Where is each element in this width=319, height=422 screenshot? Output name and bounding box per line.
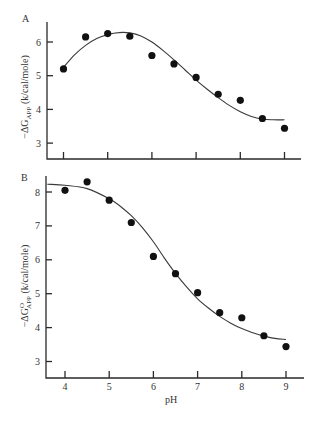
panel-b-label: B bbox=[21, 172, 28, 183]
data-point bbox=[281, 125, 288, 132]
y-tick-label: 5 bbox=[36, 70, 41, 81]
data-point bbox=[61, 187, 68, 194]
y-tick-label: 4 bbox=[36, 104, 41, 115]
y-tick-label: 6 bbox=[36, 37, 41, 48]
panel-b-axes: 345678456789 bbox=[35, 176, 304, 392]
svg-text:−ΔGAPP (k/cal/mole): −ΔGAPP (k/cal/mole) bbox=[19, 55, 33, 139]
data-point bbox=[150, 253, 157, 260]
data-point bbox=[260, 332, 267, 339]
data-point bbox=[282, 343, 289, 350]
y-tick-label: 3 bbox=[36, 138, 41, 149]
panel-b-fit-curve bbox=[47, 184, 286, 339]
data-point bbox=[84, 178, 91, 185]
y-tick-label: 8 bbox=[35, 187, 40, 198]
data-point bbox=[216, 309, 223, 316]
x-tick-label: 6 bbox=[151, 381, 156, 392]
panel-b: B −ΔGOAPP (k/cal/mole) 345678456789 bbox=[18, 172, 304, 392]
data-point bbox=[237, 97, 244, 104]
figure: A −ΔGAPP (k/cal/mole) 3456 B −ΔGOAPP (k/… bbox=[0, 0, 319, 422]
data-point bbox=[82, 33, 89, 40]
data-point bbox=[106, 197, 113, 204]
y-tick-label: 5 bbox=[35, 288, 40, 299]
data-point bbox=[215, 91, 222, 98]
data-point bbox=[128, 219, 135, 226]
x-tick-label: 8 bbox=[239, 381, 244, 392]
data-point bbox=[193, 74, 200, 81]
data-point bbox=[126, 33, 133, 40]
panel-a-axes: 3456 bbox=[36, 22, 301, 159]
panel-b-data-points bbox=[61, 178, 289, 350]
data-point bbox=[172, 270, 179, 277]
x-tick-label: 5 bbox=[107, 381, 112, 392]
x-tick-label: 4 bbox=[63, 381, 68, 392]
panel-a-fit-curve bbox=[64, 32, 285, 119]
y-tick-label: 3 bbox=[35, 356, 40, 367]
y-tick-label: 7 bbox=[35, 220, 40, 231]
y-tick-label: 4 bbox=[35, 322, 40, 333]
y-tick-label: 6 bbox=[35, 254, 40, 265]
panel-a-label: A bbox=[22, 13, 30, 24]
panel-b-y-axis-title: −ΔGOAPP (k/cal/mole) bbox=[18, 245, 33, 328]
axis-lines bbox=[47, 22, 301, 159]
data-point bbox=[238, 314, 245, 321]
fit-curve bbox=[47, 184, 286, 339]
x-tick-label: 9 bbox=[284, 381, 289, 392]
data-point bbox=[170, 60, 177, 67]
data-point bbox=[148, 52, 155, 59]
data-point bbox=[104, 30, 111, 37]
panel-a-data-points bbox=[60, 30, 288, 132]
svg-text:−ΔGOAPP (k/cal/mole): −ΔGOAPP (k/cal/mole) bbox=[18, 245, 33, 328]
x-tick-label: 7 bbox=[195, 381, 200, 392]
x-axis-title: pH bbox=[165, 394, 177, 405]
data-point bbox=[60, 65, 67, 72]
panel-a: A −ΔGAPP (k/cal/mole) 3456 bbox=[19, 13, 301, 159]
data-point bbox=[259, 115, 266, 122]
data-point bbox=[194, 289, 201, 296]
fit-curve bbox=[64, 32, 285, 119]
panel-a-y-axis-title: −ΔGAPP (k/cal/mole) bbox=[19, 55, 33, 139]
